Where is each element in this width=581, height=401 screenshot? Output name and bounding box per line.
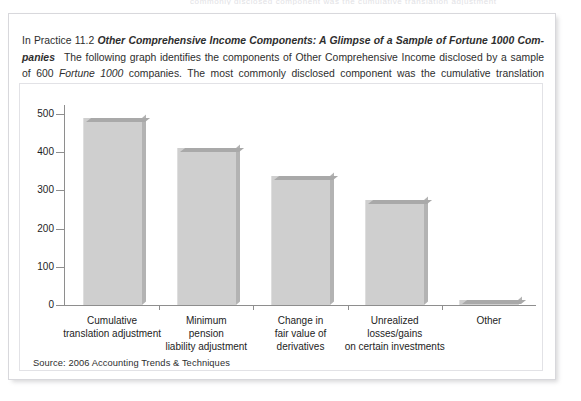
chart-frame: 0100200300400500 Cumulativetranslation a…: [19, 83, 543, 371]
y-axis-line: [64, 105, 65, 306]
bar: [271, 176, 330, 305]
bar-side-face: [330, 173, 334, 305]
bar-top-face: [86, 118, 150, 122]
bar-side-face: [142, 114, 146, 305]
y-tick-label: 100: [24, 262, 54, 272]
page-bleed-text: commonly disclosed component was the cum…: [190, 0, 550, 5]
bar-face: [177, 148, 236, 305]
bar: [177, 148, 236, 305]
bar-top-face: [462, 300, 526, 304]
y-tick-mark: [56, 190, 64, 191]
x-axis-category-label: Other: [432, 314, 546, 327]
x-tick-mark: [348, 305, 349, 310]
bar-side-face: [424, 197, 428, 305]
bar-face: [271, 176, 330, 305]
intro-title: Other Comprehensive Income Components: A…: [97, 35, 544, 46]
y-tick-mark: [56, 229, 64, 230]
intro-title-continued: panies: [22, 52, 55, 63]
intro-label: In Practice 11.2: [22, 35, 94, 46]
x-axis-line: [64, 305, 536, 306]
chart-source-note: Source: 2006 Accounting Trends & Techniq…: [33, 358, 230, 368]
y-tick-label: 0: [24, 300, 54, 310]
bar: [83, 118, 142, 305]
y-tick-label: 500: [24, 109, 54, 119]
x-tick-mark: [442, 305, 443, 310]
y-tick-mark: [56, 267, 64, 268]
bar: [365, 200, 424, 305]
x-tick-mark: [159, 305, 160, 310]
x-label-line: on certain investments: [338, 340, 452, 353]
in-practice-panel: In Practice 11.2 Other Comprehensive Inc…: [8, 13, 556, 380]
y-tick-label: 300: [24, 185, 54, 195]
bar-top-face: [180, 148, 244, 152]
y-tick-label: 200: [24, 224, 54, 234]
bar-face: [365, 200, 424, 305]
x-label-line: losses/gains: [338, 327, 452, 340]
y-tick-mark: [56, 152, 64, 153]
intro-body-italic: Fortune 1000: [59, 68, 123, 79]
y-tick-mark: [56, 114, 64, 115]
bar: [459, 300, 518, 305]
bar-side-face: [236, 144, 240, 305]
bar-chart-plot: 0100200300400500 Cumulativetranslation a…: [20, 84, 544, 372]
x-label-line: Other: [432, 314, 546, 327]
bar-top-face: [368, 200, 432, 204]
bar-face: [83, 118, 142, 305]
y-tick-mark: [56, 305, 64, 306]
y-tick-label: 400: [24, 147, 54, 157]
bar-top-face: [274, 176, 338, 180]
x-tick-mark: [253, 305, 254, 310]
